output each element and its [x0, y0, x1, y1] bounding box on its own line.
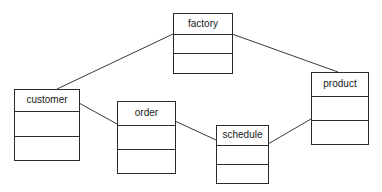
class-name: order	[118, 102, 175, 126]
class-box-customer[interactable]: customer	[14, 89, 80, 161]
class-name: factory	[174, 14, 232, 35]
class-box-product[interactable]: product	[311, 72, 369, 145]
class-operations-compartment	[217, 165, 268, 183]
class-operations-compartment	[15, 137, 79, 160]
class-name: schedule	[217, 126, 268, 146]
class-box-order[interactable]: order	[117, 101, 176, 174]
association-factory-product	[232, 34, 338, 72]
association-customer-order	[79, 103, 117, 124]
class-name: product	[312, 73, 368, 97]
class-box-factory[interactable]: factory	[173, 13, 233, 74]
class-attributes-compartment	[174, 35, 232, 54]
class-operations-compartment	[312, 121, 368, 144]
class-attributes-compartment	[118, 126, 175, 150]
class-attributes-compartment	[312, 97, 368, 121]
class-box-schedule[interactable]: schedule	[216, 125, 269, 184]
class-attributes-compartment	[217, 146, 268, 165]
class-attributes-compartment	[15, 112, 79, 137]
class-operations-compartment	[118, 150, 175, 173]
association-factory-customer	[57, 34, 173, 89]
association-order-schedule	[175, 121, 216, 140]
association-schedule-product	[268, 119, 311, 144]
class-diagram-canvas: factory customer order schedule product	[0, 0, 382, 192]
class-name: customer	[15, 90, 79, 112]
class-operations-compartment	[174, 54, 232, 73]
